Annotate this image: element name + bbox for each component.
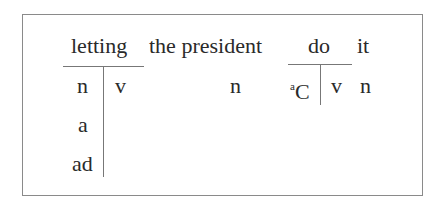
letting-divider xyxy=(103,66,104,177)
do-tag-c-label: C xyxy=(295,79,310,104)
letting-tag-a: a xyxy=(78,114,88,136)
the-president-tag-n: n xyxy=(230,75,241,97)
letting-tag-ad: ad xyxy=(72,153,93,175)
do-tag-v: v xyxy=(331,75,342,97)
word-it: it xyxy=(357,35,369,57)
do-divider xyxy=(320,64,321,105)
word-the-president: the president xyxy=(149,35,262,57)
word-letting: letting xyxy=(71,35,127,57)
letting-tag-n: n xyxy=(77,75,88,97)
letting-tag-v: v xyxy=(115,75,126,97)
it-tag-n: n xyxy=(360,75,371,97)
do-tag-c: aC xyxy=(290,75,310,103)
word-do: do xyxy=(308,35,330,57)
